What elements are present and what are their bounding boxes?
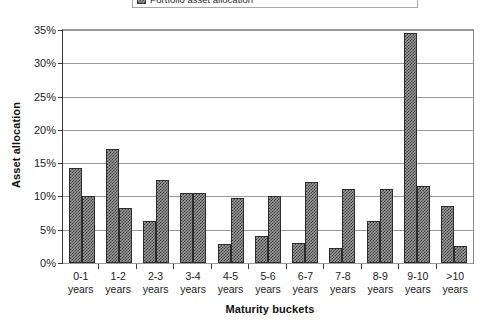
x-axis-label: 3-4years	[174, 270, 211, 296]
bar-group	[100, 30, 137, 263]
x-axis-label-line: years	[212, 283, 249, 296]
bar[interactable]	[218, 244, 231, 263]
x-axis-title: Maturity buckets	[60, 303, 480, 315]
x-axis-label: 6-7years	[287, 270, 324, 296]
bar[interactable]	[404, 33, 417, 263]
x-axis-tick	[324, 264, 361, 269]
x-axis-label-line: 1-2	[99, 270, 136, 283]
bar[interactable]	[106, 149, 119, 264]
bar[interactable]	[193, 193, 206, 263]
x-axis-label-line: years	[174, 283, 211, 296]
x-axis-label: 4-5years	[212, 270, 249, 296]
bar[interactable]	[342, 189, 355, 263]
y-axis-label: 0%	[40, 257, 56, 269]
x-axis-label-line: years	[62, 283, 99, 296]
bar-group	[175, 30, 212, 263]
bar[interactable]	[180, 193, 193, 263]
x-axis-ticks	[62, 264, 474, 269]
bar-chart: Portfolio asset allocation Asset allocat…	[0, 0, 498, 326]
y-axis-label: 5%	[40, 224, 56, 236]
bar-group	[138, 30, 175, 263]
bar[interactable]	[305, 182, 318, 263]
x-axis-label-line: years	[324, 283, 361, 296]
bar-group	[249, 30, 286, 263]
y-axis-label: 15%	[34, 157, 56, 169]
x-axis-label: 7-8years	[324, 270, 361, 296]
bar-group	[436, 30, 473, 263]
bar[interactable]	[268, 196, 281, 263]
legend-swatch-icon	[137, 0, 146, 4]
x-axis-label-line: 0-1	[62, 270, 99, 283]
x-axis-label: 8-9years	[362, 270, 399, 296]
bar[interactable]	[143, 221, 156, 263]
x-axis-label: 0-1years	[62, 270, 99, 296]
bar[interactable]	[255, 236, 268, 263]
bar[interactable]	[69, 168, 82, 263]
x-axis-tick	[62, 264, 99, 269]
x-axis-label: 2-3years	[137, 270, 174, 296]
x-axis-labels: 0-1years1-2years2-3years3-4years4-5years…	[62, 270, 474, 296]
bar[interactable]	[367, 221, 380, 263]
bar[interactable]	[441, 206, 454, 263]
bar-group	[324, 30, 361, 263]
y-axis-label: 30%	[34, 57, 56, 69]
x-axis-label-line: years	[437, 283, 474, 296]
bar[interactable]	[119, 208, 132, 263]
x-axis-tick	[362, 264, 399, 269]
chart-legend: Portfolio asset allocation	[132, 0, 418, 8]
x-axis-label-line: years	[399, 283, 436, 296]
bar[interactable]	[417, 186, 430, 263]
bar[interactable]	[82, 196, 95, 263]
bar[interactable]	[380, 189, 393, 263]
bar-group	[398, 30, 435, 263]
bar-group	[361, 30, 398, 263]
y-axis-title: Asset allocation	[10, 60, 22, 230]
bar-group	[63, 30, 100, 263]
y-axis-label: 35%	[34, 24, 56, 36]
x-axis-label: 5-6years	[249, 270, 286, 296]
y-axis-label: 25%	[34, 91, 56, 103]
x-axis-label-line: 9-10	[399, 270, 436, 283]
plot-area: 0%5%10%15%20%25%30%35%	[62, 29, 474, 264]
bar[interactable]	[454, 246, 467, 263]
x-axis-tick	[437, 264, 474, 269]
x-axis-label-line: 3-4	[174, 270, 211, 283]
x-axis-tick	[174, 264, 211, 269]
x-axis-tick	[287, 264, 324, 269]
bar[interactable]	[156, 180, 169, 263]
x-axis-label-line: 2-3	[137, 270, 174, 283]
x-axis-label-line: years	[249, 283, 286, 296]
bar[interactable]	[231, 198, 244, 263]
bars-layer	[63, 30, 473, 263]
x-axis-label: >10years	[437, 270, 474, 296]
x-axis-label-line: 5-6	[249, 270, 286, 283]
y-axis-label: 10%	[34, 190, 56, 202]
x-axis-label-line: years	[99, 283, 136, 296]
x-axis-label-line: years	[137, 283, 174, 296]
x-axis-label-line: 7-8	[324, 270, 361, 283]
x-axis-label-line: 4-5	[212, 270, 249, 283]
x-axis-label: 9-10years	[399, 270, 436, 296]
x-axis-label-line: 8-9	[362, 270, 399, 283]
x-axis-label-line: years	[287, 283, 324, 296]
x-axis-tick	[249, 264, 286, 269]
bar[interactable]	[329, 248, 342, 263]
x-axis-tick	[99, 264, 136, 269]
x-axis-tick	[399, 264, 436, 269]
x-axis-label-line: 6-7	[287, 270, 324, 283]
y-axis-label: 20%	[34, 124, 56, 136]
bar-group	[212, 30, 249, 263]
x-axis-label-line: years	[362, 283, 399, 296]
x-axis-label-line: >10	[437, 270, 474, 283]
x-axis-tick	[212, 264, 249, 269]
x-axis-tick	[137, 264, 174, 269]
bar[interactable]	[292, 243, 305, 263]
bar-group	[287, 30, 324, 263]
x-axis-label: 1-2years	[99, 270, 136, 296]
legend-label-portfolio: Portfolio asset allocation	[150, 0, 253, 5]
